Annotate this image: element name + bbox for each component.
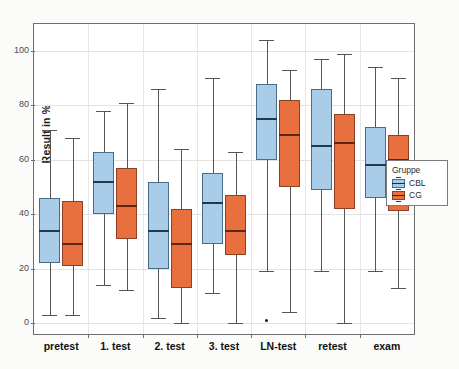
y-tick-mark-40 [31,214,35,215]
legend-item-cbl[interactable]: CBL [392,178,442,188]
legend-swatch-cg-icon [392,191,405,200]
whisker-lower [398,211,399,287]
x-axis-line [33,334,415,335]
whisker-upper [398,78,399,135]
x-tick-mark-6 [360,334,361,338]
y-tick-mark-0 [31,323,35,324]
legend-item-cg[interactable]: CG [392,190,442,200]
x-tick-mark-4 [251,334,252,338]
y-tick-mark-20 [31,269,35,270]
x-tick-mark-2 [143,334,144,338]
y-tick-mark-80 [31,105,35,106]
legend-label-cg: CG [409,190,422,200]
x-tick-mark-1 [88,334,89,338]
y-tick-label-20: 20 [3,263,29,273]
y-tick-label-0: 0 [3,317,29,327]
box-cg-exam[interactable] [34,24,414,334]
whisker-cap-lower [391,288,406,289]
x-tick-label-exam: exam [347,340,427,352]
y-tick-label-40: 40 [3,208,29,218]
y-tick-mark-100 [31,51,35,52]
legend-label-cbl: CBL [409,178,426,188]
plot-area [34,24,414,334]
boxplot-figure: Result in % 020406080100pretest1. test2.… [0,0,459,369]
legend: Gruppe CBL CG [386,160,448,206]
y-tick-label-60: 60 [3,154,29,164]
y-tick-label-100: 100 [3,45,29,55]
y-tick-mark-60 [31,160,35,161]
x-tick-mark-3 [197,334,198,338]
legend-swatch-cbl-icon [392,179,405,188]
legend-title: Gruppe [392,165,442,175]
x-tick-mark-5 [305,334,306,338]
whisker-cap-upper [391,78,406,79]
y-tick-label-80: 80 [3,99,29,109]
